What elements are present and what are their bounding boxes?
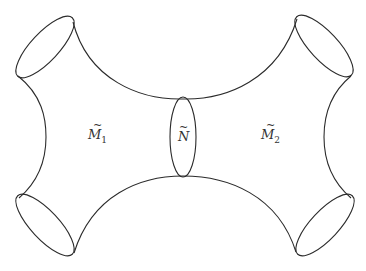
right-boundary-curve [324, 76, 351, 198]
left-boundary-curve [18, 76, 46, 198]
label-m2-sub: 2 [274, 135, 280, 145]
boundary-ellipse-top-right [286, 7, 361, 85]
boundary-ellipse-top-left [7, 8, 82, 86]
label-m2: ~ M2 [261, 128, 280, 145]
label-m1: ~ M1 [88, 128, 107, 145]
label-m1-sub: 1 [101, 135, 107, 145]
label-n: ~ N [178, 130, 189, 143]
boundary-ellipse-bottom-left [7, 186, 82, 264]
tilde-mark: ~ [88, 120, 107, 131]
bottom-boundary-curve [74, 176, 296, 253]
boundary-ellipse-bottom-right [287, 186, 362, 264]
top-boundary-curve [73, 19, 297, 99]
tilde-mark: ~ [178, 122, 189, 133]
tilde-mark: ~ [261, 120, 280, 131]
